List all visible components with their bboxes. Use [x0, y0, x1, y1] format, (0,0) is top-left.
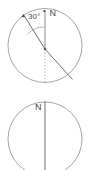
top-north-label: N [50, 8, 57, 18]
tilted-rotation-axis [45, 49, 73, 80]
top-figure-group: 30° N [8, 8, 82, 84]
diagram-root: 30° N N [0, 0, 93, 170]
axis-tilt-diagram: 30° N N [0, 0, 93, 170]
bottom-north-label: N [35, 102, 42, 112]
angle-arc [28, 27, 46, 34]
angle-label: 30° [28, 12, 40, 21]
top-center-dot [44, 48, 47, 51]
bottom-figure-group: N [8, 101, 82, 170]
